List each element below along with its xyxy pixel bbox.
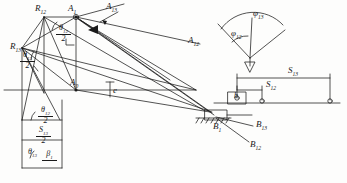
angle-arc-theta12-lower — [31, 112, 35, 120]
label-B13: B13 — [256, 120, 267, 131]
ray-A0-to-B1 — [76, 90, 210, 112]
figure-canvas: R13 R12 A1 A13 A12 A0 B1 B13 B12 e θ12 2… — [0, 0, 347, 183]
label-B1: B1 — [213, 122, 221, 133]
rotation-sector — [218, 12, 285, 72]
label-B12: B12 — [250, 140, 261, 151]
label-R12: R12 — [35, 4, 46, 15]
label-A1-top: A1 — [68, 4, 76, 15]
label-s13-half: S13 2 — [36, 126, 51, 145]
label-theta13-half-left: θ13 2 — [20, 51, 35, 70]
ray-A1-to-B1-lower — [78, 19, 214, 115]
ray-secondary-2 — [22, 48, 196, 90]
slider-displacement-diagram — [214, 74, 340, 104]
sector-ray-right — [250, 30, 285, 58]
label-phi13: φ13 — [253, 9, 264, 20]
label-A13: A13 — [106, 2, 117, 13]
label-A0: A0 — [70, 78, 78, 89]
label-phi12: φ12 — [231, 29, 242, 40]
label-offset-e: e — [113, 86, 117, 95]
dot-A1 — [75, 16, 78, 19]
construction-lines — [4, 4, 340, 168]
label-s13: S13 — [288, 66, 298, 77]
label-s12: S12 — [266, 80, 276, 91]
label-theta12-half-lower: θ12 2 — [38, 106, 53, 125]
label-block-b: b — [234, 92, 238, 100]
label-A12: A12 — [188, 36, 199, 47]
label-beta1: θ13 — [28, 148, 37, 159]
label-theta12-half-upper: θ12 2 — [56, 24, 71, 43]
sector-ray-mid — [250, 18, 252, 58]
label-theta13-half-lower: β1 — [42, 150, 57, 161]
